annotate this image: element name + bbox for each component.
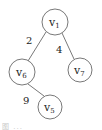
tree-diagram: v1 v6 v7 v5 2 4 9 [0, 0, 102, 130]
figure-caption: 图 ... [2, 121, 100, 130]
weight-v1-v6: 2 [26, 35, 32, 46]
edges [28, 32, 74, 96]
edge-v6-v5 [28, 84, 44, 96]
weight-v6-v5: 9 [23, 95, 29, 106]
edge-v1-v7 [62, 33, 74, 59]
weight-v1-v7: 4 [56, 44, 62, 55]
